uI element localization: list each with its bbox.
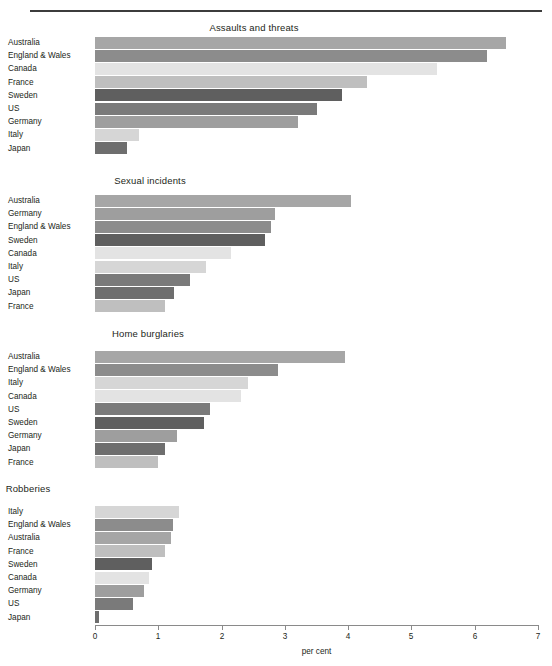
- category-label: US: [8, 273, 90, 286]
- bar: [95, 63, 437, 75]
- bar: [95, 456, 158, 468]
- category-label: Germany: [8, 584, 90, 597]
- category-label: Australia: [8, 36, 90, 49]
- axis-tick-label: 4: [346, 632, 351, 641]
- bar-rows: Australia Germany England & Wales Sweden…: [0, 194, 552, 313]
- bar: [95, 611, 99, 623]
- bar-row: Germany: [0, 207, 552, 220]
- bar-row: Canada: [0, 247, 552, 260]
- chart-title: Sexual incidents: [0, 175, 426, 186]
- axis-tick-label: 3: [283, 632, 288, 641]
- category-label: Japan: [8, 442, 90, 455]
- bar-row: Sweden: [0, 416, 552, 429]
- bar: [95, 50, 487, 62]
- bar-row: Italy: [0, 505, 552, 518]
- category-label: Australia: [8, 350, 90, 363]
- category-label: Canada: [8, 62, 90, 75]
- category-label: Sweden: [8, 558, 90, 571]
- bar: [95, 274, 190, 286]
- bar: [95, 430, 177, 442]
- bar-row: England & Wales: [0, 220, 552, 233]
- bar-rows: Australia England & Wales Italy Canada U…: [0, 350, 552, 469]
- category-label: France: [8, 300, 90, 313]
- category-label: Italy: [8, 505, 90, 518]
- bar-row: England & Wales: [0, 49, 552, 62]
- bar-row: Germany: [0, 115, 552, 128]
- category-label: Italy: [8, 376, 90, 389]
- bar: [95, 142, 127, 154]
- bar: [95, 300, 165, 312]
- category-label: US: [8, 403, 90, 416]
- category-label: England & Wales: [8, 49, 90, 62]
- axis-tick-label: 6: [473, 632, 478, 641]
- bar-row: Australia: [0, 531, 552, 544]
- category-label: Germany: [8, 207, 90, 220]
- axis-tick-label: 0: [93, 632, 98, 641]
- bar-row: US: [0, 102, 552, 115]
- bar-row: France: [0, 300, 552, 313]
- category-label: France: [8, 456, 90, 469]
- bar-row: Canada: [0, 571, 552, 584]
- axis-tick: [475, 625, 476, 630]
- bar: [95, 443, 165, 455]
- category-label: Sweden: [8, 416, 90, 429]
- chart-title: Robberies: [0, 483, 304, 494]
- axis-tick: [158, 625, 159, 630]
- bar-row: Japan: [0, 286, 552, 299]
- bar-row: England & Wales: [0, 518, 552, 531]
- bar-row: Germany: [0, 429, 552, 442]
- bar-row: Japan: [0, 442, 552, 455]
- bar: [95, 506, 179, 518]
- bar: [95, 364, 278, 376]
- x-axis: 0 1 2 3 4 5 6 7 per cent: [95, 625, 538, 626]
- axis-tick: [95, 625, 96, 630]
- bar: [95, 572, 149, 584]
- bar-row: Australia: [0, 194, 552, 207]
- bar-row: US: [0, 597, 552, 610]
- bar: [95, 129, 139, 141]
- category-label: US: [8, 597, 90, 610]
- bar: [95, 390, 241, 402]
- chart-page: Assaults and threats Australia England &…: [0, 0, 552, 666]
- category-label: Sweden: [8, 89, 90, 102]
- bar: [95, 261, 206, 273]
- bar: [95, 519, 173, 531]
- bar-row: Canada: [0, 62, 552, 75]
- category-label: Japan: [8, 142, 90, 155]
- axis-tick-label: 5: [409, 632, 414, 641]
- bar: [95, 417, 204, 429]
- axis-title: per cent: [95, 647, 538, 656]
- category-label: Sweden: [8, 234, 90, 247]
- category-label: France: [8, 76, 90, 89]
- bar-row: France: [0, 545, 552, 558]
- category-label: Canada: [8, 247, 90, 260]
- category-label: Japan: [8, 286, 90, 299]
- bar: [95, 598, 133, 610]
- bar: [95, 37, 506, 49]
- axis-tick-label: 2: [220, 632, 225, 641]
- bar: [95, 558, 152, 570]
- bar: [95, 234, 265, 246]
- category-label: England & Wales: [8, 220, 90, 233]
- bar: [95, 351, 345, 363]
- bar-row: US: [0, 403, 552, 416]
- bar-rows: Italy England & Wales Australia France S…: [0, 505, 552, 624]
- bar-row: Sweden: [0, 89, 552, 102]
- bar: [95, 377, 248, 389]
- category-label: Japan: [8, 611, 90, 624]
- bar-row: Japan: [0, 142, 552, 155]
- bar: [95, 287, 174, 299]
- category-label: Italy: [8, 260, 90, 273]
- bar: [95, 545, 165, 557]
- bar-row: Italy: [0, 128, 552, 141]
- bar: [95, 532, 171, 544]
- bar-row: Australia: [0, 36, 552, 49]
- chart-title: Assaults and threats: [0, 22, 530, 33]
- bar-row: Sweden: [0, 558, 552, 571]
- bar-row: Italy: [0, 376, 552, 389]
- category-label: England & Wales: [8, 363, 90, 376]
- bar: [95, 247, 231, 259]
- bar: [95, 116, 298, 128]
- chart-title: Home burglaries: [0, 328, 424, 339]
- category-label: France: [8, 545, 90, 558]
